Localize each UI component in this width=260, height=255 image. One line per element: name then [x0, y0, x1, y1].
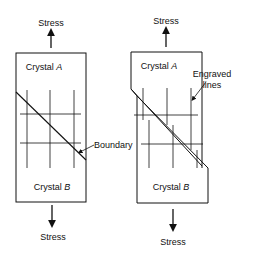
right-stress-bottom-label: Stress [160, 237, 186, 247]
engraved-lines-pointer-arrow [193, 82, 206, 99]
right-crystal-a-label: Crystal A [141, 61, 178, 71]
right-stress-top-label: Stress [153, 16, 179, 26]
engraved-label-line2: lines [203, 80, 222, 90]
left-stress-top-label: Stress [38, 18, 64, 28]
slip-band-line-lower [137, 96, 208, 168]
boundary-pointer-arrow [80, 145, 94, 152]
engraved-label-line1: Engraved [193, 69, 232, 79]
crystal-slip-diagram: Stress Crystal A Boundary Crystal B Stre… [0, 0, 260, 255]
left-crystal-b-label: Crystal B [34, 182, 71, 192]
left-boundary-line [16, 92, 86, 160]
left-crystal-a-label: Crystal A [26, 62, 63, 72]
left-crystal-box [16, 53, 86, 202]
boundary-label: Boundary [94, 140, 133, 150]
left-grid-lines [20, 90, 81, 168]
left-figure: Stress Crystal A Boundary Crystal B Stre… [16, 18, 133, 242]
left-stress-bottom-label: Stress [40, 232, 66, 242]
right-crystal-b-label: Crystal B [153, 182, 190, 192]
right-figure: Stress Crystal A Engraved lines Crystal … [131, 16, 231, 247]
